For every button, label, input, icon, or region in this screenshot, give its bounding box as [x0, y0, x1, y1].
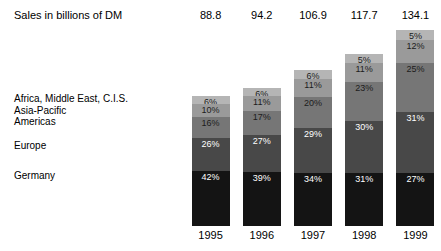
- bar-segment[interactable]: 26%: [192, 138, 230, 172]
- bar-segment[interactable]: 6%: [294, 70, 332, 79]
- bar-segment[interactable]: 5%: [396, 30, 434, 40]
- bar-1996: 6%11%17%27%39%: [243, 88, 281, 226]
- bar-1997: 6%11%20%29%34%: [294, 70, 332, 226]
- segment-value-label: 27%: [243, 136, 281, 146]
- bar-segment[interactable]: 12%: [396, 40, 434, 64]
- segment-value-label: 25%: [396, 64, 434, 74]
- bar-segment[interactable]: 42%: [192, 171, 230, 226]
- legend-label-2: Americas: [14, 116, 56, 128]
- x-axis-label-1997: 1997: [289, 229, 337, 242]
- sales-total-1999: 134.1: [391, 9, 439, 22]
- bar-group-1997[interactable]: 6%11%20%29%34%: [294, 70, 332, 226]
- segment-value-label: 16%: [192, 118, 230, 128]
- segment-value-label: 12%: [396, 41, 434, 51]
- bar-segment[interactable]: 6%: [192, 96, 230, 104]
- bar-segment[interactable]: 39%: [243, 172, 281, 226]
- bar-segment[interactable]: 11%: [243, 96, 281, 111]
- bar-group-1999[interactable]: 5%12%25%31%27%: [396, 30, 434, 226]
- bar-segment[interactable]: 11%: [345, 63, 383, 82]
- segment-value-label: 23%: [345, 83, 383, 93]
- segment-value-label: 10%: [192, 105, 230, 115]
- bar-group-1996[interactable]: 6%11%17%27%39%: [243, 88, 281, 226]
- bar-segment[interactable]: 25%: [396, 63, 434, 112]
- bar-segment[interactable]: 17%: [243, 111, 281, 134]
- segment-value-label: 39%: [243, 173, 281, 183]
- segment-value-label: 17%: [243, 112, 281, 122]
- legend-label-4: Germany: [14, 170, 55, 182]
- bar-segment[interactable]: 34%: [294, 173, 332, 226]
- sales-totals-row: 88.894.2106.9117.7134.1: [185, 9, 441, 23]
- sales-total-1998: 117.7: [340, 9, 388, 22]
- bar-segment[interactable]: 31%: [345, 173, 383, 226]
- segment-value-label: 30%: [345, 122, 383, 132]
- bar-group-1995[interactable]: 6%10%16%26%42%: [192, 96, 230, 226]
- plot-area: 6%10%16%26%42%6%11%17%27%39%6%11%20%29%3…: [185, 28, 441, 226]
- segment-value-label: 31%: [396, 113, 434, 123]
- bar-1995: 6%10%16%26%42%: [192, 96, 230, 226]
- bar-segment[interactable]: 29%: [294, 128, 332, 173]
- bar-1998: 5%11%23%30%31%: [345, 54, 383, 226]
- bar-segment[interactable]: 16%: [192, 117, 230, 138]
- bar-segment[interactable]: 5%: [345, 54, 383, 63]
- bar-segment[interactable]: 27%: [243, 135, 281, 172]
- bar-segment[interactable]: 11%: [294, 79, 332, 96]
- segment-value-label: 34%: [294, 174, 332, 184]
- x-axis-label-1996: 1996: [238, 229, 286, 242]
- x-axis-label-1999: 1999: [391, 229, 439, 242]
- segment-value-label: 31%: [345, 174, 383, 184]
- bar-segment[interactable]: 30%: [345, 121, 383, 173]
- bar-segment[interactable]: 10%: [192, 104, 230, 117]
- bar-group-1998[interactable]: 5%11%23%30%31%: [345, 54, 383, 226]
- sales-row-label: Sales in billions of DM: [14, 9, 122, 22]
- stacked-bar-chart: Sales in billions of DM 88.894.2106.9117…: [0, 0, 441, 251]
- legend-label-3: Europe: [14, 140, 46, 152]
- segment-value-label: 29%: [294, 129, 332, 139]
- segment-value-label: 20%: [294, 98, 332, 108]
- bar-segment[interactable]: 27%: [396, 173, 434, 226]
- x-axis-label-1998: 1998: [340, 229, 388, 242]
- bar-segment[interactable]: 23%: [345, 82, 383, 122]
- sales-total-1995: 88.8: [187, 9, 235, 22]
- segment-value-label: 11%: [294, 80, 332, 90]
- bar-segment[interactable]: 20%: [294, 97, 332, 128]
- segment-value-label: 11%: [243, 97, 281, 107]
- sales-total-1997: 106.9: [289, 9, 337, 22]
- sales-total-1996: 94.2: [238, 9, 286, 22]
- segment-value-label: 42%: [192, 172, 230, 182]
- bar-1999: 5%12%25%31%27%: [396, 30, 434, 226]
- segment-value-label: 27%: [396, 174, 434, 184]
- legend-label-0: Africa, Middle East, C.I.S.: [14, 93, 128, 105]
- segment-value-label: 11%: [345, 64, 383, 74]
- bar-segment[interactable]: 6%: [243, 88, 281, 96]
- bar-segment[interactable]: 31%: [396, 112, 434, 173]
- x-axis-label-1995: 1995: [187, 229, 235, 242]
- segment-value-label: 26%: [192, 139, 230, 149]
